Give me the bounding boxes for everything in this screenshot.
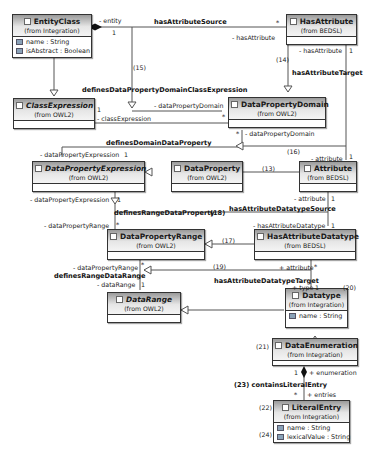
role-label: - dataPropertyDomain xyxy=(245,130,315,138)
class-icon xyxy=(282,404,289,411)
association-name: hasAttributeTarget xyxy=(292,69,363,77)
multiplicity: * xyxy=(141,261,144,269)
role-label: - dataRange xyxy=(97,281,135,289)
attribute-icon xyxy=(16,48,23,54)
association-name: (23) containsLiteralEntry xyxy=(234,381,327,389)
attribute-icon xyxy=(289,313,296,319)
class-icon xyxy=(24,18,31,25)
class-entityclass[interactable]: EntityClass (from Integration) name : St… xyxy=(12,14,92,58)
role-label: - dataPropertyDomain xyxy=(154,102,224,110)
role-label: - dataPropertyRange xyxy=(73,264,138,272)
multiplicity: 1 xyxy=(349,153,353,161)
constraint-number: (22) xyxy=(259,404,272,412)
class-icon xyxy=(292,292,299,299)
attribute-isabstract: isAbstract : Boolean xyxy=(16,47,88,56)
class-datapropertyexpression[interactable]: DataPropertyExpression (from OWL2) xyxy=(32,161,145,192)
role-label: + enumeration xyxy=(309,369,357,377)
multiplicity: 1 xyxy=(294,369,298,377)
constraint-number: (18) xyxy=(210,209,225,217)
class-datarange[interactable]: DataRange (from OWL2) xyxy=(107,292,181,323)
association-name: definesRangeDataRange xyxy=(54,272,146,280)
association-name: definesDataPropertyDomainClassExpression xyxy=(82,86,247,94)
multiplicity: * xyxy=(314,263,317,271)
role-label: - hasAttribute xyxy=(299,47,342,55)
attribute-name: name : String xyxy=(289,312,344,321)
role-label: + type xyxy=(292,284,313,292)
multiplicity: 1 xyxy=(117,196,121,204)
multiplicity: 1 xyxy=(97,106,101,114)
association-name: definesDomainDataProperty xyxy=(106,139,211,147)
role-label: + entries xyxy=(307,391,336,399)
multiplicity: 1 xyxy=(315,284,319,292)
role-label: - dataPropertyRange xyxy=(44,222,109,230)
class-icon xyxy=(290,18,297,25)
class-icon xyxy=(16,102,23,109)
class-dataenumeration[interactable]: DataEnumeration (from Integration) xyxy=(272,338,358,366)
multiplicity: * xyxy=(116,221,119,229)
attribute-name: name : String xyxy=(16,38,88,47)
role-label: - dataPropertyExpression xyxy=(40,151,119,159)
class-datapropertydomain[interactable]: DataPropertyDomain (from OWL2) xyxy=(228,97,326,128)
class-datapropertyrange[interactable]: DataPropertyRange (from OWL2) xyxy=(107,229,205,260)
multiplicity: 1 xyxy=(331,195,335,203)
class-icon xyxy=(257,233,264,240)
class-dataproperty[interactable]: DataProperty (from OWL2) xyxy=(171,161,243,192)
constraint-number: (19) xyxy=(213,263,226,271)
constraint-number: (21) xyxy=(256,343,269,351)
constraint-number: (14) xyxy=(276,56,289,64)
constraint-number: (13) xyxy=(262,165,275,173)
class-datatype[interactable]: Datatype (from Integration) name : Strin… xyxy=(285,288,348,328)
role-label: - hasAttributeDatatype xyxy=(253,222,325,230)
class-icon xyxy=(174,165,181,172)
class-icon xyxy=(275,342,282,349)
role-label: - dataPropertyExpression xyxy=(30,196,109,204)
multiplicity: 1 xyxy=(112,29,116,37)
class-classexpression[interactable]: ClassExpression (from OWL2) xyxy=(13,98,95,129)
multiplicity: * xyxy=(276,19,279,27)
association-name: hasAttributeSource xyxy=(154,18,227,26)
class-icon xyxy=(116,296,123,303)
class-icon xyxy=(110,233,117,240)
attribute-lexicalvalue: lexicalValue : String xyxy=(277,433,346,442)
multiplicity: * xyxy=(294,391,297,399)
class-literalentry[interactable]: LiteralEntry (from Integration) name : S… xyxy=(273,400,350,443)
constraint-number: (15) xyxy=(133,64,146,72)
multiplicity: * xyxy=(236,130,239,138)
multiplicity: 1 xyxy=(141,281,145,289)
class-icon xyxy=(231,101,238,108)
association-name: definesRangeDataProperty xyxy=(114,209,215,217)
constraint-number: (17) xyxy=(222,237,235,245)
role-label: + attribute xyxy=(279,264,314,272)
role-label: - hasAttribute xyxy=(232,34,275,42)
multiplicity: 1 xyxy=(349,47,353,55)
attribute-icon xyxy=(277,425,284,431)
constraint-number: (20) xyxy=(343,284,356,292)
class-icon xyxy=(304,165,311,172)
role-label: - attribute xyxy=(294,195,326,203)
constraint-number: (16) xyxy=(287,148,300,156)
constraint-number: (24) xyxy=(259,431,272,439)
role-label: - entity xyxy=(99,17,122,25)
multiplicity: * xyxy=(222,113,225,121)
attribute-icon xyxy=(16,39,23,45)
role-label: - classExpression xyxy=(97,115,151,123)
class-hasattributedatatype[interactable]: HasAttributeDatatype (from BEDSL) xyxy=(254,229,356,260)
class-attribute[interactable]: Attribute (from BEDSL) xyxy=(299,161,357,192)
attribute-name: name : String xyxy=(277,424,346,433)
class-hasattribute[interactable]: HasAttribute (from BEDSL) xyxy=(286,14,357,45)
multiplicity: 1 xyxy=(124,151,128,159)
multiplicity: 1 xyxy=(331,222,335,230)
role-label: - attribute xyxy=(311,155,343,163)
association-name: hasAttributeDatatypeSource xyxy=(229,205,336,213)
class-icon xyxy=(35,165,42,172)
attribute-icon xyxy=(277,434,284,440)
